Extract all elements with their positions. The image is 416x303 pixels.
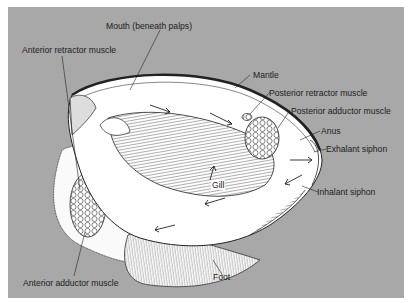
label-inhalant-siphon: Inhalant siphon	[317, 187, 375, 197]
label-exhalant-siphon: Exhalant siphon	[326, 144, 387, 154]
label-foot: Foot	[213, 272, 230, 282]
posterior-adductor-muscle-shape	[245, 117, 279, 159]
label-anterior-adductor-muscle: Anterior adductor muscle	[23, 278, 119, 288]
label-posterior-retractor-muscle: Posterior retractor muscle	[269, 88, 367, 98]
label-mantle: Mantle	[253, 70, 279, 80]
label-mouth: Mouth (beneath palps)	[106, 21, 192, 31]
label-posterior-adductor-muscle: Posterior adductor muscle	[291, 106, 391, 116]
label-anus: Anus	[321, 126, 341, 136]
label-anterior-retractor-muscle: Anterior retractor muscle	[22, 45, 116, 55]
label-gill: Gill	[211, 180, 225, 190]
posterior-retractor-muscle-shape	[242, 114, 252, 121]
